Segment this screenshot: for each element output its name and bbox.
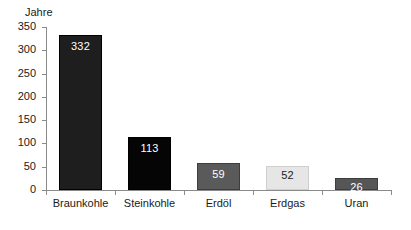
bar: 26 xyxy=(335,178,378,190)
y-axis-tick: 50 xyxy=(42,167,47,168)
y-axis-tick: 250 xyxy=(42,74,47,75)
y-axis-tick: 200 xyxy=(42,97,47,98)
y-axis-tick: 150 xyxy=(42,120,47,121)
x-axis-tick xyxy=(391,190,392,195)
bar: 52 xyxy=(266,166,309,190)
y-axis-tick: 350 xyxy=(42,27,47,28)
y-axis-tick-label: 300 xyxy=(18,43,36,56)
x-axis-category-label: Braunkohle xyxy=(46,196,115,210)
y-axis-tick-label: 350 xyxy=(18,20,36,33)
y-axis-tick-label: 250 xyxy=(18,67,36,80)
y-axis-tick: 300 xyxy=(42,50,47,51)
y-axis-unit-label: Jahre xyxy=(25,6,53,19)
bar-value-label: 113 xyxy=(129,142,170,155)
y-axis-tick-label: 50 xyxy=(24,160,36,173)
y-axis-tick-label: 150 xyxy=(18,113,36,126)
bar-value-label: 332 xyxy=(60,40,101,53)
bar-value-label: 59 xyxy=(198,168,239,181)
x-axis-tick xyxy=(184,190,185,195)
x-axis-tick xyxy=(322,190,323,195)
y-axis-tick-label: 200 xyxy=(18,90,36,103)
bar: 59 xyxy=(197,163,240,190)
y-axis-tick: 100 xyxy=(42,143,47,144)
x-axis-category-label: Steinkohle xyxy=(115,196,184,210)
plot-area: 050100150200250300350 332113595226 xyxy=(46,27,391,191)
bar: 332 xyxy=(59,35,102,190)
x-axis-category-label: Uran xyxy=(322,196,391,210)
x-axis-tick xyxy=(253,190,254,195)
y-axis-tick-label: 0 xyxy=(30,183,36,196)
x-axis-category-label: Erdgas xyxy=(253,196,322,210)
y-axis-tick-label: 100 xyxy=(18,136,36,149)
x-axis-category-label: Erdöl xyxy=(184,196,253,210)
bar-chart: Jahre 050100150200250300350 332113595226… xyxy=(0,0,411,230)
x-axis-tick xyxy=(115,190,116,195)
bar: 113 xyxy=(128,137,171,190)
bar-value-label: 26 xyxy=(336,181,377,194)
bar-value-label: 52 xyxy=(267,169,308,182)
x-axis-tick xyxy=(46,190,47,195)
